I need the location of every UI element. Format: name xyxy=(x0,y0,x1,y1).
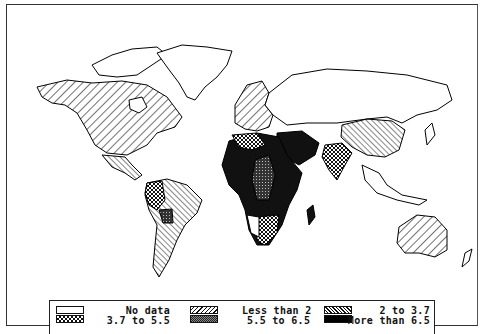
region-arctic-islands xyxy=(92,47,167,77)
swatch-no-data xyxy=(56,306,84,314)
region-australia xyxy=(397,215,447,257)
region-madagascar xyxy=(307,205,315,225)
region-se-asia xyxy=(362,165,427,205)
legend-label-3-7-to-5-5: 3.7 to 5.5 xyxy=(94,316,170,326)
world-map xyxy=(7,5,477,300)
swatch-5-5-to-6-5 xyxy=(190,315,218,323)
legend-label-more-than-6-5: More than 6.5 xyxy=(340,316,430,326)
map-legend: No data 3.7 to 5.5 Less than 2 5.5 to 6.… xyxy=(49,300,435,334)
region-mexico xyxy=(102,155,142,180)
region-japan xyxy=(425,123,435,145)
region-southern-africa xyxy=(257,215,279,245)
region-new-zealand xyxy=(462,249,472,267)
legend-label-5-5-to-6-5: 5.5 to 6.5 xyxy=(247,316,310,326)
region-ussr xyxy=(265,69,452,125)
region-greenland xyxy=(157,45,232,100)
region-india xyxy=(322,143,352,180)
swatch-2-to-3-7 xyxy=(324,306,352,314)
swatch-3-7-to-5-5 xyxy=(56,315,84,323)
swatch-less-than-2 xyxy=(190,306,218,314)
region-north-america xyxy=(37,80,182,155)
